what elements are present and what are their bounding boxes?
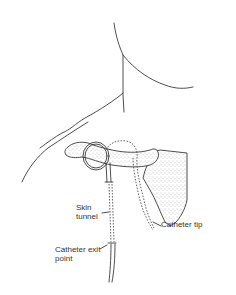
external-catheter-2 <box>112 244 115 282</box>
label-exit-point-line2: point <box>55 254 73 263</box>
leader-exit-point <box>100 245 107 249</box>
skin-tunnel-2 <box>112 184 114 242</box>
leader-catheter-tip <box>153 222 161 226</box>
catheter-segment-2 <box>110 163 111 182</box>
catheter-segment <box>106 163 107 182</box>
catheter-diagram: Skin tunnel Catheter tip Catheter exit p… <box>0 0 236 295</box>
leader-skin-tunnel <box>102 212 109 213</box>
label-catheter-tip: Catheter tip <box>161 220 203 229</box>
label-skin-tunnel-line2: tunnel <box>76 212 98 221</box>
external-catheter <box>109 244 111 282</box>
label-exit-point-line1: Catheter exit <box>55 245 101 254</box>
label-skin-tunnel-line1: Skin <box>76 203 92 212</box>
skin-tunnel <box>109 184 111 242</box>
shoulder-outline <box>40 93 123 148</box>
jaw-outline <box>114 23 193 88</box>
neck-midline <box>123 55 124 112</box>
clavicle <box>65 142 159 167</box>
